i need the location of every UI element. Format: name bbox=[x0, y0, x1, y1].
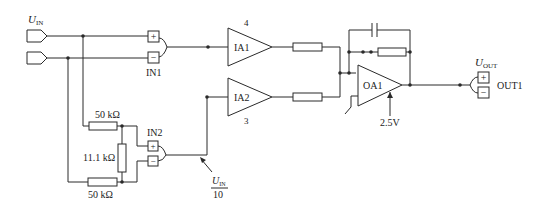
resistor-ia1 bbox=[293, 43, 322, 51]
circuit-diagram: UIN + − IN1 IA1 4 IA2 3 bbox=[0, 0, 545, 207]
oa1-opamp: OA1 bbox=[358, 65, 402, 106]
svg-text:4: 4 bbox=[244, 18, 249, 28]
resistor-feedback bbox=[378, 48, 406, 56]
svg-text:−: − bbox=[151, 52, 157, 63]
resistor-50k-bottom bbox=[88, 178, 117, 186]
resistor-11k bbox=[118, 144, 126, 172]
svg-text:50 kΩ: 50 kΩ bbox=[95, 109, 120, 120]
svg-text:50 kΩ: 50 kΩ bbox=[88, 189, 113, 200]
svg-text:−: − bbox=[481, 87, 487, 98]
ia2-amplifier: IA2 3 bbox=[228, 78, 272, 126]
in2-terminal: + − bbox=[148, 141, 166, 166]
ia1-amplifier: IA1 4 bbox=[228, 18, 272, 66]
svg-text:+: + bbox=[151, 31, 157, 42]
uin-label: UIN bbox=[28, 13, 43, 27]
svg-text:+: + bbox=[150, 141, 155, 151]
svg-text:OA1: OA1 bbox=[363, 80, 382, 91]
out1-terminal: + − bbox=[478, 72, 489, 98]
resistor-50k-top bbox=[89, 122, 117, 130]
in2-label: IN2 bbox=[147, 127, 163, 138]
svg-text:−: − bbox=[150, 156, 155, 166]
input-connector-negative bbox=[27, 52, 47, 64]
out1-label: OUT1 bbox=[497, 80, 523, 91]
uout-label: UOUT bbox=[475, 56, 498, 70]
resistor-ia2 bbox=[293, 93, 322, 101]
ref-voltage-label: 2.5V bbox=[380, 117, 401, 128]
svg-text:+: + bbox=[481, 72, 487, 83]
svg-text:10: 10 bbox=[213, 189, 223, 200]
svg-text:11.1 kΩ: 11.1 kΩ bbox=[83, 152, 115, 163]
input-connector-positive bbox=[27, 30, 47, 42]
in1-label: IN1 bbox=[146, 67, 162, 78]
in1-terminal: + − bbox=[148, 31, 167, 63]
svg-text:IA2: IA2 bbox=[234, 92, 250, 103]
svg-text:3: 3 bbox=[244, 116, 249, 126]
uin-div-label: UIN bbox=[212, 175, 226, 187]
svg-text:IA1: IA1 bbox=[234, 42, 250, 53]
